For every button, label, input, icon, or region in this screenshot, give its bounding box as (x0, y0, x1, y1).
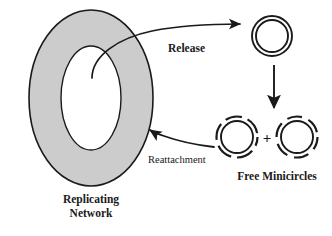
released-minicircle-group (252, 16, 292, 56)
plus-symbol: + (263, 130, 272, 146)
minicircle-left-outer-ring-dashed (217, 117, 258, 158)
free-minicircles-label: Free Minicircles (237, 170, 317, 182)
network-label-line2: Network (70, 207, 113, 219)
minicircle-right-outer-ring-dashed (277, 117, 318, 158)
nicked-minicircle-right (277, 117, 318, 158)
reattachment-arrow-group: Reattachment (148, 130, 214, 165)
minicircle-right-inner-ring (281, 121, 313, 153)
nicked-minicircle-left (217, 117, 258, 158)
release-arrow-label: Release (168, 42, 205, 54)
free-minicircles-group: + Free Minicircles (217, 117, 318, 183)
network-label-group: Replicating Network (63, 193, 119, 219)
closed-minicircle-inner-ring (256, 20, 288, 52)
diagram-canvas: Release + Free Minicircles (0, 0, 332, 236)
reattachment-arrow (150, 130, 214, 147)
closed-minicircle-outer-ring (252, 16, 292, 56)
network-label-line1: Replicating (63, 193, 119, 206)
replication-cycle-diagram: Release + Free Minicircles (0, 0, 332, 236)
minicircle-left-inner-ring (221, 121, 253, 153)
reattachment-arrow-label: Reattachment (148, 154, 206, 165)
